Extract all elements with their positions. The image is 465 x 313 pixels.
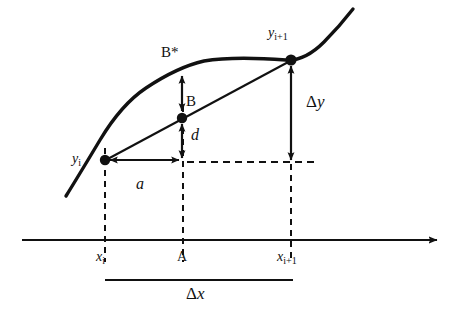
label-delta-x-var: x	[197, 284, 205, 303]
tick-label-x-i-sub: i	[102, 255, 105, 266]
math-diagram-figure: yi yi+1 B* B a d Δy Δx xi A xi+1	[0, 0, 465, 313]
label-delta-x: Δx	[186, 285, 204, 302]
label-delta-y-greek: Δ	[306, 92, 317, 111]
point-marker-yi	[100, 155, 110, 165]
label-delta-y: Δy	[306, 93, 324, 110]
label-d: d	[191, 127, 199, 143]
label-y-i-sub: i	[78, 157, 81, 168]
label-b-star: B*	[161, 45, 179, 60]
label-y-i-plus-1-sub: i+1	[274, 31, 288, 42]
tick-label-x-i-plus-1-sub: i+1	[283, 255, 297, 266]
tick-label-x-i-plus-1: xi+1	[277, 250, 297, 266]
tick-label-x-i: xi	[96, 250, 105, 266]
point-marker-yi1	[285, 54, 296, 65]
label-y-i-plus-1: yi+1	[268, 26, 288, 42]
label-a: a	[136, 176, 144, 192]
tick-label-point-a: A	[177, 250, 187, 264]
label-y-i: yi	[72, 152, 81, 168]
secant-chord-line	[104, 60, 292, 161]
point-marker-b	[177, 113, 187, 123]
label-delta-x-greek: Δ	[186, 284, 197, 303]
label-delta-y-var: y	[317, 92, 325, 111]
label-b: B	[186, 94, 196, 109]
diagram-canvas	[0, 0, 465, 313]
